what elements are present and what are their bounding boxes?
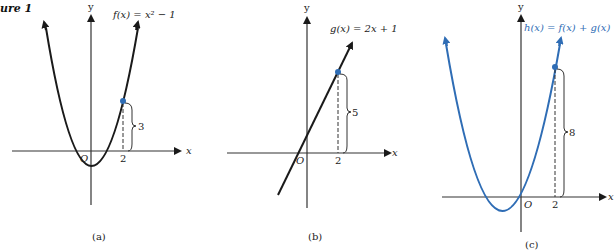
brace-label: 5 [352,107,358,118]
y-axis-label: y [87,1,94,12]
panel-c: 8 x y O 2 h(x) = f(x) + g(x) (c) [442,1,614,250]
equation-label: f(x) = x² − 1 [112,9,176,20]
x-axis-label: x [186,145,192,156]
y-axis-label: y [517,1,524,12]
tick-label: 2 [335,155,341,166]
brace-icon [340,74,351,153]
curve-h [446,44,560,211]
caption: (b) [308,231,322,242]
origin-label: O [296,155,304,166]
panel-a: 3 x y O 2 f(x) = x² − 1 (a) [12,1,192,242]
caption: (c) [525,239,539,250]
tick-label: 2 [120,153,126,164]
curve-f [46,28,138,166]
brace-label: 3 [138,121,144,132]
figure-canvas: 3 x y O 2 f(x) = x² − 1 (a) 5 x y O 2 g(… [0,0,615,252]
x-axis-label: x [608,191,614,202]
brace-icon [125,103,136,151]
panel-b: 5 x y O 2 g(x) = 2x + 1 (b) [227,2,398,242]
brace-icon [557,69,568,197]
tick-label: 2 [552,199,558,210]
equation-label: g(x) = 2x + 1 [330,23,398,34]
y-axis-label: y [303,2,310,13]
origin-label: O [524,199,532,210]
equation-label: h(x) = f(x) + g(x) [524,22,610,33]
x-axis-label: x [392,147,398,158]
brace-label: 8 [569,127,575,138]
origin-label: O [80,153,88,164]
line-g [278,43,352,195]
caption: (a) [92,231,106,242]
